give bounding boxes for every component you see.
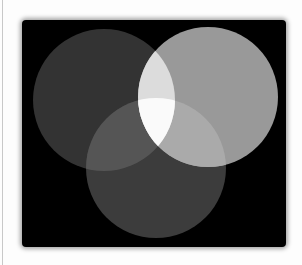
venn-circles: [0, 0, 302, 265]
image-frame: [0, 0, 302, 265]
